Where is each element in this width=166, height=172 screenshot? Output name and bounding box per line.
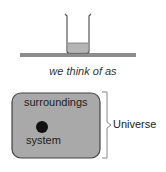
universe-label: Universe bbox=[113, 118, 156, 130]
surroundings-label: surroundings bbox=[24, 96, 88, 108]
diagram-canvas bbox=[0, 0, 166, 172]
caption-we-think-of-as: we think of as bbox=[0, 65, 166, 77]
system-dot bbox=[36, 121, 48, 133]
system-label: system bbox=[26, 134, 61, 146]
universe-bracket bbox=[102, 92, 111, 158]
beaker-liquid bbox=[68, 43, 88, 52]
